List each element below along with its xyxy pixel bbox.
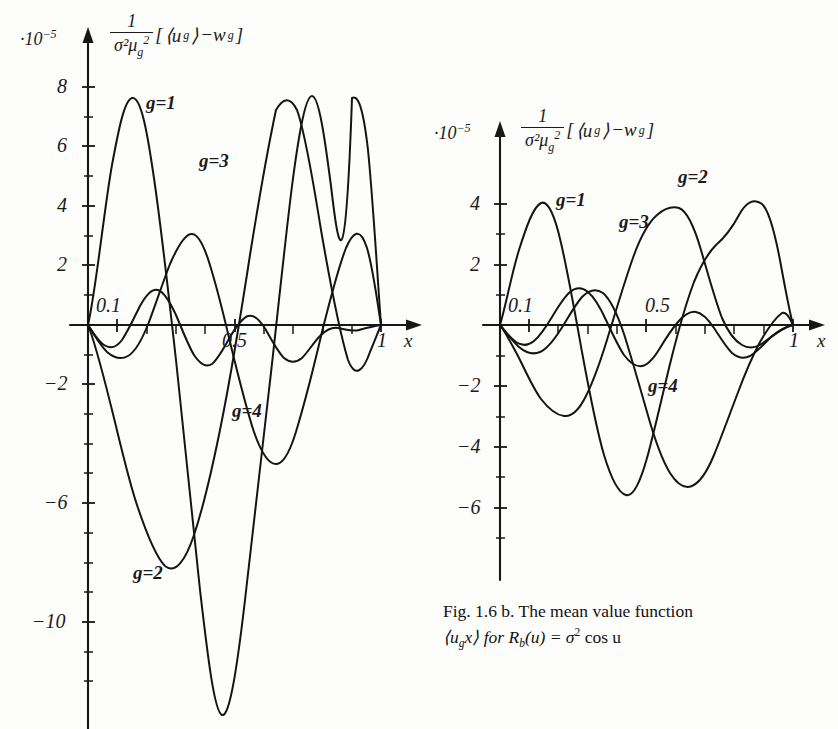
figure-root: ·10−5 1 σ²μg2 [ ⟨ug⟩ −wg ] 8 6 4 2 −2 −6…: [0, 0, 838, 729]
right-ytick-label-neg6: −6: [457, 497, 481, 517]
caption-mean-mid: x⟩ for R: [465, 627, 520, 647]
figure-caption: Fig. 1.6 b. The mean value function ⟨ugx…: [443, 599, 693, 652]
right-ytick-label-neg2: −2: [457, 375, 481, 395]
left-curve-label-g4: g=4: [232, 401, 262, 420]
right-curve-label-g1: g=1: [556, 190, 586, 209]
left-ytick-label-8: 8: [57, 76, 67, 96]
left-formula-bracket-open: [: [155, 24, 162, 46]
right-xtick-label-0.5: 0.5: [645, 295, 670, 315]
right-ytick-label-2: 2: [470, 254, 480, 274]
left-ytick-label-4: 4: [57, 195, 67, 215]
left-scale-exponent: −5: [43, 27, 57, 41]
left-ytick-label-2: 2: [57, 254, 67, 274]
right-panel-axes: [483, 121, 825, 580]
caption-end: cos u: [585, 627, 621, 647]
left-xtick-label-1: 1: [377, 330, 387, 350]
right-formula-bracket-close: ]: [647, 119, 654, 141]
left-formula-bracket-close: ]: [236, 24, 243, 46]
right-y-axis-arrow: [495, 121, 506, 137]
left-xtick-label-0.5: 0.5: [222, 330, 247, 350]
left-y-axis-arrow: [83, 27, 94, 43]
right-scale-exponent: −5: [457, 121, 471, 135]
left-curve-label-g2: g=2: [133, 563, 163, 582]
right-x-axis-name: x: [817, 331, 825, 350]
right-ytick-label-4: 4: [470, 193, 480, 213]
caption-sup: 2: [575, 626, 581, 638]
right-formula-minus-w: −w: [611, 119, 637, 141]
caption-line-2: ⟨ugx⟩ for Rb(u) = σ2 cos u: [443, 624, 693, 652]
right-formula-bracket-open: [: [566, 119, 573, 141]
right-curve-label-g2: g=2: [678, 167, 708, 186]
caption-tail: (u) = σ: [525, 627, 575, 647]
right-y-axis-formula: 1 σ²μg2 [ ⟨ug⟩ −wg ]: [521, 107, 654, 153]
right-formula-mean-open: ⟨u: [576, 119, 593, 142]
right-formula-numerator: 1: [534, 107, 551, 127]
left-formula-mean-open: ⟨u: [165, 24, 182, 47]
right-xtick-label-0.1: 0.1: [508, 295, 533, 315]
right-formula-w-sub: g: [639, 123, 645, 138]
caption-line-1: Fig. 1.6 b. The mean value function: [443, 599, 693, 624]
left-ytick-label-neg10: −10: [32, 611, 66, 631]
left-x-axis-name: x: [404, 331, 412, 350]
left-x-axis-arrow: [406, 320, 422, 331]
left-formula-w-sub: g: [228, 28, 234, 43]
right-panel-curves: [500, 201, 793, 495]
plot-canvas: [0, 0, 838, 729]
left-formula-fraction: 1 σ²μg2: [110, 12, 153, 58]
left-formula-numerator: 1: [123, 12, 140, 32]
left-scale-prefix: ·10: [20, 29, 43, 49]
left-y-axis-formula: 1 σ²μg2 [ ⟨ug⟩ −wg ]: [110, 12, 243, 58]
left-formula-mean-close: ⟩: [191, 24, 198, 47]
right-curve-label-g3: g=3: [619, 212, 649, 231]
right-formula-fraction: 1 σ²μg2: [521, 107, 564, 153]
left-xtick-label-0.1: 0.1: [96, 295, 121, 315]
right-curve-label-g4: g=4: [648, 376, 678, 395]
left-ytick-label-neg6: −6: [44, 492, 68, 512]
right-scale-label: ·10−5: [434, 122, 471, 142]
left-formula-denominator: σ²μg2: [110, 32, 153, 58]
left-scale-label: ·10−5: [20, 28, 57, 48]
left-panel-axes: [70, 27, 422, 729]
right-formula-mean-sub: g: [594, 123, 600, 138]
left-formula-mean-sub: g: [183, 28, 189, 43]
right-xtick-label-1: 1: [789, 330, 799, 350]
right-x-axis-arrow: [809, 320, 825, 331]
left-ytick-label-6: 6: [57, 135, 67, 155]
left-ytick-label-neg2: −2: [44, 373, 68, 393]
left-formula-minus-w: −w: [200, 24, 226, 46]
left-curve-label-g1: g=1: [146, 93, 176, 112]
right-ytick-label-neg4: −4: [457, 436, 481, 456]
right-scale-prefix: ·10: [434, 123, 457, 143]
caption-mean-open: ⟨u: [443, 627, 459, 647]
left-curve-label-g3: g=3: [199, 151, 229, 170]
right-formula-mean-close: ⟩: [602, 119, 609, 142]
right-formula-denominator: σ²μg2: [521, 127, 564, 153]
